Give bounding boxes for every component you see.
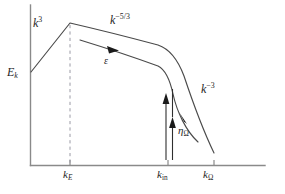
y-axis-label: Ek	[7, 66, 18, 78]
y-axis-label-sub: k	[14, 71, 18, 80]
x-tick-label-k-E: kE	[63, 169, 72, 180]
x-tick-k-omega-sub: Ω	[208, 174, 213, 182]
injection-arrow-right-icon	[169, 117, 176, 128]
slope-k3-exponent: 3	[38, 15, 42, 24]
x-tick-k-E-sub: E	[68, 174, 72, 182]
x-tick-label-k-omega: kΩ	[203, 169, 213, 180]
x-tick-label-k-in: kin	[157, 169, 168, 180]
figure-canvas	[0, 0, 285, 194]
x-tick-k-in-sub: in	[162, 174, 168, 182]
slope-label-k-minus-3: k−3	[201, 83, 215, 95]
energy-spectrum-figure: Ek k3 k−5/3 k−3 ε ηΩ kE kin kΩ	[0, 0, 285, 194]
energy-flux-label: ε	[104, 56, 108, 66]
enstrophy-flux-sub: Ω	[183, 130, 188, 138]
slope-label-k3: k3	[33, 17, 42, 29]
injection-arrow-left-icon	[163, 93, 170, 104]
enstrophy-flux-label: ηΩ	[178, 125, 189, 136]
slope-kneg3-exponent: −3	[206, 81, 214, 90]
slope-label-k-minus-5-3: k−5/3	[110, 14, 130, 26]
slope-k53-exponent: −5/3	[115, 12, 130, 21]
